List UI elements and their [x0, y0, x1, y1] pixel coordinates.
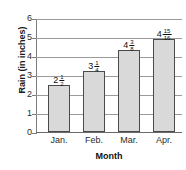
data-label-mar-denominator: 8 — [129, 46, 134, 52]
data-label-jan-numerator: 1 — [59, 74, 64, 81]
y-tick-label-5: 5 — [20, 33, 32, 42]
bar-jan — [48, 85, 70, 132]
data-label-apr-whole: 4 — [157, 30, 162, 39]
y-tick-label-6: 6 — [20, 14, 32, 23]
gridline-0-baseline — [36, 132, 182, 133]
data-label-jan-fraction: 1 2 — [59, 74, 64, 87]
data-label-feb-whole: 3 — [88, 62, 93, 71]
data-label-apr-numerator: 15 — [163, 28, 172, 35]
data-label-jan-whole: 2 — [53, 76, 58, 85]
data-label-feb-numerator: 1 — [94, 60, 99, 67]
bar-feb — [83, 71, 105, 132]
gridline-6 — [36, 19, 182, 20]
x-tick-label-feb: Feb. — [85, 136, 103, 145]
x-tick-label-apr: Apr. — [156, 136, 172, 145]
data-label-jan: 2 1 2 — [53, 74, 64, 87]
y-tick-label-2: 2 — [20, 90, 32, 99]
x-tick-label-mar: Mar. — [120, 136, 138, 145]
bar-mar — [118, 50, 140, 132]
data-label-mar-fraction: 3 8 — [129, 39, 134, 52]
x-tick-label-jan: Jan. — [50, 136, 67, 145]
bar-chart: Rain (in inches) 6 5 4 3 2 1 0 2 — [0, 0, 186, 170]
y-tick-label-0: 0 — [20, 128, 32, 137]
plot-area: 2 1 2 3 1 4 4 3 8 4 15 16 — [36, 19, 182, 132]
data-label-jan-denominator: 2 — [59, 81, 64, 87]
data-label-apr-denominator: 16 — [163, 35, 172, 41]
y-tick-label-3: 3 — [20, 71, 32, 80]
bar-apr — [153, 39, 175, 132]
data-label-mar: 4 3 8 — [123, 39, 134, 52]
data-label-feb-denominator: 4 — [94, 67, 99, 73]
data-label-apr-fraction: 15 16 — [163, 28, 172, 41]
y-tick-label-1: 1 — [20, 109, 32, 118]
data-label-mar-numerator: 3 — [129, 39, 134, 46]
data-label-apr: 4 15 16 — [157, 28, 172, 41]
data-label-mar-whole: 4 — [123, 41, 128, 50]
x-axis-title: Month — [36, 151, 182, 161]
data-label-feb-fraction: 1 4 — [94, 60, 99, 73]
y-tick-label-4: 4 — [20, 52, 32, 61]
y-tick-mark-0 — [32, 133, 37, 134]
data-label-feb: 3 1 4 — [88, 60, 99, 73]
y-axis-tick-labels: 6 5 4 3 2 1 0 — [18, 0, 32, 170]
